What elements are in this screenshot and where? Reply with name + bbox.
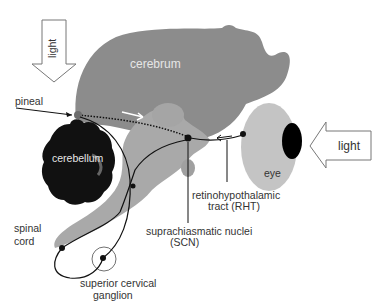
pineal-pathway-diagram: light light cerebrum pineal cerebellum e…: [0, 0, 386, 302]
rht-label-2: tract (RHT): [208, 200, 260, 212]
cerebrum-label: cerebrum: [130, 58, 181, 72]
scg-label-2: ganglion: [93, 289, 133, 301]
light-label-top: light: [46, 39, 58, 58]
pineal-label: pineal: [15, 95, 43, 107]
scg-label-1: superior cervical: [80, 277, 156, 289]
spinal-cord-label-2: cord: [14, 235, 34, 247]
eye-label: eye: [264, 167, 281, 179]
spinal-cord-label-1: spinal: [14, 222, 41, 234]
thalamus-shape: [152, 103, 184, 127]
light-label-right: light: [338, 140, 360, 154]
scn-label-2: (SCN): [170, 236, 199, 248]
cerebellum-label: cerebellum: [52, 152, 103, 164]
pupil-shape: [282, 123, 302, 159]
